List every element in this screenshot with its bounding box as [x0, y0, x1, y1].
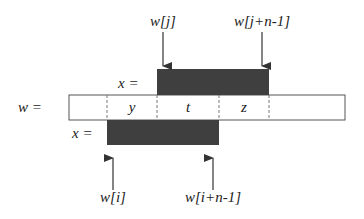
w-label: w =: [18, 99, 42, 115]
label-w-j: w[j]: [150, 13, 176, 29]
label-w-i-n-1: w[i+n-1]: [185, 189, 241, 205]
x-lower-bar: [107, 120, 219, 145]
segment-z-label: z: [240, 99, 247, 115]
segment-y-label: y: [127, 99, 136, 115]
label-w-i: w[i]: [100, 189, 126, 205]
x-lower-label: x =: [71, 125, 93, 141]
label-w-j-n-1: w[j+n-1]: [234, 13, 290, 29]
w-string-bar: [69, 95, 345, 120]
string-overlap-diagram: w = x = x = y t z w[j] w[j+n-1] w[i] w[i…: [0, 0, 364, 219]
x-upper-label: x =: [117, 75, 139, 91]
x-upper-bar: [157, 69, 269, 95]
